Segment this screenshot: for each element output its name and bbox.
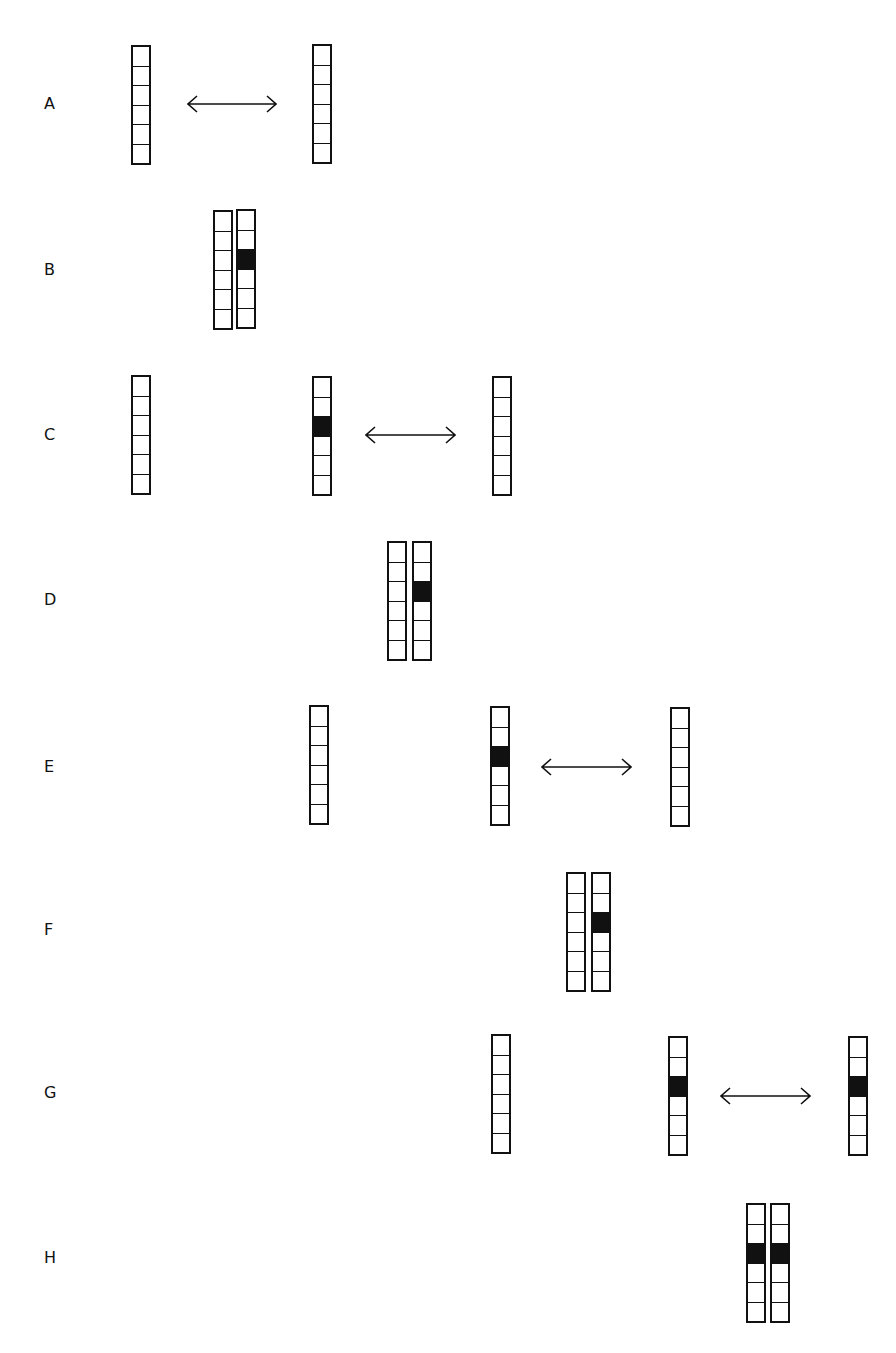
empty-cell (493, 1114, 509, 1134)
empty-cell (314, 476, 330, 495)
empty-cell (493, 1134, 509, 1153)
empty-cell (215, 212, 231, 232)
filled-cell (748, 1244, 764, 1264)
empty-cell (311, 746, 327, 766)
empty-cell (672, 768, 688, 788)
chromosome-column (213, 210, 233, 330)
empty-cell (314, 437, 330, 457)
empty-cell (772, 1303, 788, 1322)
chromosome-column (312, 44, 332, 164)
chromosome-column (312, 376, 332, 496)
empty-cell (314, 85, 330, 105)
chromosome-column (131, 375, 151, 495)
empty-cell (311, 766, 327, 786)
chromosome-column (566, 872, 586, 992)
empty-cell (672, 807, 688, 826)
empty-cell (314, 66, 330, 86)
empty-cell (748, 1225, 764, 1245)
empty-cell (314, 398, 330, 418)
chromosome-column (848, 1036, 868, 1156)
empty-cell (850, 1116, 866, 1136)
chromosome-column (670, 707, 690, 827)
filled-cell (593, 913, 609, 933)
empty-cell (593, 952, 609, 972)
double-arrow-icon (187, 94, 277, 114)
empty-cell (493, 1075, 509, 1095)
empty-cell (215, 271, 231, 291)
empty-cell (311, 707, 327, 727)
empty-cell (568, 894, 584, 914)
empty-cell (670, 1038, 686, 1058)
empty-cell (850, 1058, 866, 1078)
empty-cell (494, 437, 510, 457)
empty-cell (133, 455, 149, 475)
chromosome-column (591, 872, 611, 992)
row-label-d: D (44, 590, 64, 610)
empty-cell (133, 106, 149, 126)
empty-cell (133, 145, 149, 164)
empty-cell (492, 767, 508, 787)
empty-cell (568, 874, 584, 894)
empty-cell (238, 211, 254, 231)
empty-cell (772, 1225, 788, 1245)
empty-cell (314, 144, 330, 163)
chromosome-column (236, 209, 256, 329)
empty-cell (492, 708, 508, 728)
empty-cell (389, 621, 405, 641)
empty-cell (493, 1036, 509, 1056)
empty-cell (568, 913, 584, 933)
empty-cell (748, 1303, 764, 1322)
empty-cell (311, 785, 327, 805)
empty-cell (672, 787, 688, 807)
empty-cell (215, 310, 231, 329)
empty-cell (748, 1283, 764, 1303)
empty-cell (414, 543, 430, 563)
chromosome-column (309, 705, 329, 825)
empty-cell (493, 1056, 509, 1076)
empty-cell (670, 1097, 686, 1117)
empty-cell (494, 398, 510, 418)
empty-cell (493, 1095, 509, 1115)
double-arrow-icon (365, 425, 456, 445)
filled-cell (314, 417, 330, 437)
empty-cell (389, 641, 405, 660)
empty-cell (314, 456, 330, 476)
empty-cell (670, 1058, 686, 1078)
double-arrow-icon (720, 1086, 811, 1106)
empty-cell (494, 417, 510, 437)
chromosome-column (770, 1203, 790, 1323)
empty-cell (772, 1264, 788, 1284)
empty-cell (850, 1097, 866, 1117)
empty-cell (133, 67, 149, 87)
empty-cell (314, 105, 330, 125)
empty-cell (748, 1264, 764, 1284)
empty-cell (133, 475, 149, 494)
chromosome-column (491, 1034, 511, 1154)
empty-cell (215, 290, 231, 310)
empty-cell (670, 1116, 686, 1136)
empty-cell (215, 251, 231, 271)
empty-cell (389, 602, 405, 622)
row-label-g: G (44, 1083, 64, 1103)
empty-cell (133, 436, 149, 456)
empty-cell (593, 894, 609, 914)
row-label-f: F (44, 920, 64, 940)
empty-cell (672, 748, 688, 768)
empty-cell (311, 805, 327, 824)
empty-cell (314, 124, 330, 144)
empty-cell (133, 125, 149, 145)
empty-cell (494, 378, 510, 398)
empty-cell (133, 47, 149, 67)
empty-cell (238, 270, 254, 290)
row-label-b: B (44, 260, 64, 280)
empty-cell (772, 1283, 788, 1303)
empty-cell (672, 729, 688, 749)
empty-cell (314, 378, 330, 398)
filled-cell (670, 1077, 686, 1097)
chromosome-column (490, 706, 510, 826)
empty-cell (672, 709, 688, 729)
filled-cell (492, 747, 508, 767)
empty-cell (389, 563, 405, 583)
empty-cell (593, 972, 609, 991)
chromosome-column (387, 541, 407, 661)
